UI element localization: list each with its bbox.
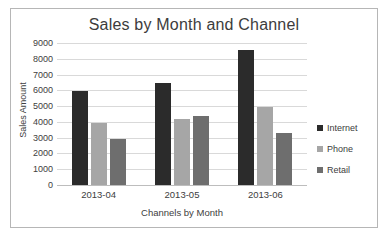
bar-internet-2013-05[interactable]: [155, 83, 171, 185]
x-axis-tick-label: 2013-06: [224, 189, 307, 200]
legend-item-internet[interactable]: Internet: [317, 117, 379, 138]
legend-label: Retail: [327, 165, 350, 175]
y-axis-tick-label: 3000: [33, 133, 53, 143]
legend-swatch-icon: [317, 146, 323, 152]
x-axis-tick-label: 2013-04: [57, 189, 140, 200]
chart-title: Sales by Month and Channel: [11, 16, 377, 34]
bar-retail-2013-06[interactable]: [276, 133, 292, 185]
bar-internet-2013-06[interactable]: [238, 50, 254, 185]
bar-group: [224, 43, 307, 185]
chart-legend: InternetPhoneRetail: [317, 117, 379, 180]
x-axis-tick-labels: 2013-042013-052013-06: [57, 189, 307, 200]
bar-internet-2013-04[interactable]: [72, 91, 88, 185]
y-axis-tick-label: 4000: [33, 117, 53, 127]
y-axis-tick-label: 9000: [33, 38, 53, 48]
legend-label: Internet: [327, 123, 358, 133]
x-axis-title: Channels by Month: [55, 207, 309, 218]
bar-group: [57, 43, 140, 185]
y-axis-tick-label: 5000: [33, 101, 53, 111]
chart-frame: Sales by Month and Channel Sales Amount …: [10, 8, 378, 228]
y-axis-tick-label: 2000: [33, 148, 53, 158]
legend-item-phone[interactable]: Phone: [317, 138, 379, 159]
y-axis-tick-label: 7000: [33, 70, 53, 80]
y-axis-title: Sales Amount: [18, 67, 28, 153]
legend-swatch-icon: [317, 125, 323, 131]
legend-item-retail[interactable]: Retail: [317, 159, 379, 180]
gridline: [57, 185, 307, 186]
bar-phone-2013-06[interactable]: [257, 107, 273, 185]
bar-retail-2013-05[interactable]: [193, 116, 209, 185]
legend-label: Phone: [327, 144, 353, 154]
plot-area: 9000800070006000500040003000200010000: [57, 43, 307, 185]
bar-retail-2013-04[interactable]: [110, 139, 126, 185]
y-axis-tick-label: 8000: [33, 54, 53, 64]
bar-group: [140, 43, 223, 185]
bar-phone-2013-04[interactable]: [91, 123, 107, 185]
bar-series-layer: [57, 43, 307, 185]
y-axis-tick-label: 1000: [33, 164, 53, 174]
legend-swatch-icon: [317, 167, 323, 173]
y-axis-tick-label: 6000: [33, 85, 53, 95]
y-axis-tick-label: 0: [48, 180, 53, 190]
bar-phone-2013-05[interactable]: [174, 119, 190, 185]
x-axis-tick-label: 2013-05: [140, 189, 223, 200]
